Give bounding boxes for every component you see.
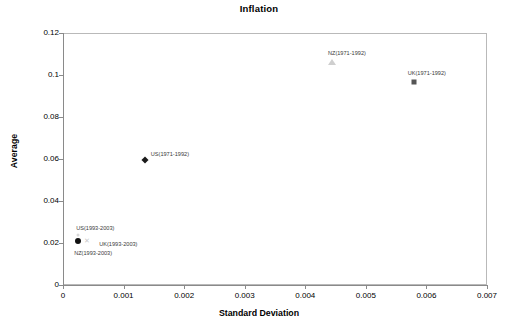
data-point-label: NZ(1993-2003) bbox=[74, 250, 112, 256]
data-point-label: US(1971-1992) bbox=[151, 151, 189, 157]
inflation-scatter-chart: Inflation 00.020.040.060.080.10.12 00.00… bbox=[0, 0, 518, 331]
x-tick-mark bbox=[245, 285, 246, 289]
data-point-label: NZ(1971-1992) bbox=[328, 50, 366, 56]
y-tick-label-wrap: 0.04 bbox=[20, 197, 59, 205]
x-tick-mark bbox=[366, 285, 367, 289]
data-point-marker[interactable]: ✕ bbox=[84, 236, 90, 243]
y-tick-mark bbox=[59, 117, 63, 118]
data-point-label: US(1993-2003) bbox=[76, 225, 114, 231]
x-tick-label: 0.003 bbox=[215, 291, 275, 300]
x-tick-label: 0.002 bbox=[154, 291, 214, 300]
y-tick-label: 0.12 bbox=[25, 29, 59, 37]
y-tick-label-wrap: 0.06 bbox=[20, 155, 59, 163]
y-axis-title: Average bbox=[9, 111, 19, 191]
y-tick-label: 0.02 bbox=[25, 239, 59, 247]
data-point-label: UK(1971-1992) bbox=[408, 70, 446, 76]
y-tick-label: 0.04 bbox=[25, 197, 59, 205]
y-tick-label-wrap: 0.1 bbox=[20, 71, 59, 79]
x-tick-label: 0 bbox=[33, 291, 93, 300]
y-tick-label: 0 bbox=[25, 281, 59, 289]
y-tick-mark bbox=[59, 201, 63, 202]
y-tick-label: 0.06 bbox=[25, 155, 59, 163]
y-tick-label-wrap: 0.12 bbox=[20, 29, 59, 37]
x-tick-mark bbox=[63, 285, 64, 289]
y-tick-label-wrap: 0.08 bbox=[20, 113, 59, 121]
x-tick-mark bbox=[124, 285, 125, 289]
data-point-marker[interactable] bbox=[411, 79, 416, 84]
y-tick-label: 0.1 bbox=[25, 71, 59, 79]
y-tick-label-wrap: 0.02 bbox=[20, 239, 59, 247]
y-tick-mark bbox=[59, 243, 63, 244]
x-axis-line bbox=[63, 285, 488, 286]
y-axis-line bbox=[63, 33, 64, 286]
x-tick-mark bbox=[487, 285, 488, 289]
y-tick-mark bbox=[59, 159, 63, 160]
x-axis-title: Standard Deviation bbox=[0, 308, 518, 318]
y-tick-label-wrap: 0 bbox=[20, 281, 59, 289]
x-tick-mark bbox=[426, 285, 427, 289]
y-tick-mark bbox=[59, 33, 63, 34]
x-tick-mark bbox=[184, 285, 185, 289]
chart-title: Inflation bbox=[0, 3, 518, 14]
x-tick-label: 0.007 bbox=[457, 291, 517, 300]
x-tick-label: 0.001 bbox=[94, 291, 154, 300]
data-point-marker[interactable] bbox=[75, 238, 81, 244]
x-tick-label: 0.004 bbox=[275, 291, 335, 300]
data-point-label: UK(1993-2003) bbox=[99, 241, 137, 247]
x-tick-label: 0.005 bbox=[336, 291, 396, 300]
y-tick-mark bbox=[59, 75, 63, 76]
data-point-marker[interactable] bbox=[77, 234, 80, 237]
data-point-marker[interactable] bbox=[328, 59, 336, 65]
x-tick-mark bbox=[305, 285, 306, 289]
x-tick-label: 0.006 bbox=[396, 291, 456, 300]
y-tick-label: 0.08 bbox=[25, 113, 59, 121]
